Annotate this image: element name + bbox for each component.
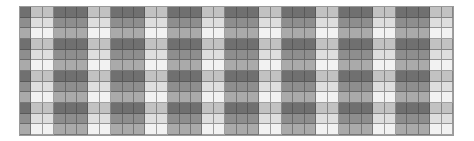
- grid-cell: [43, 124, 54, 135]
- grid-cell: [362, 82, 373, 93]
- grid-cell: [43, 103, 54, 114]
- grid-cell: [54, 18, 65, 29]
- grid-cell: [396, 7, 407, 18]
- grid-cell: [373, 28, 384, 39]
- grid-cell: [350, 103, 361, 114]
- grid-cell: [442, 92, 453, 103]
- grid-cell: [442, 103, 453, 114]
- grid-cell: [237, 103, 248, 114]
- grid-cell: [123, 92, 134, 103]
- grid-cell: [362, 28, 373, 39]
- grid-cell: [20, 28, 31, 39]
- grid-cell: [328, 114, 339, 125]
- grid-cell: [237, 7, 248, 18]
- grid-cell: [407, 7, 418, 18]
- grid-cell: [66, 103, 77, 114]
- grid-cell: [385, 124, 396, 135]
- grid-cell: [373, 39, 384, 50]
- grid-cell: [168, 28, 179, 39]
- grid-cell: [100, 39, 111, 50]
- grid-cell: [123, 39, 134, 50]
- grid-cell: [430, 71, 441, 82]
- grid-cell: [396, 82, 407, 93]
- grid-cell: [339, 39, 350, 50]
- grid-cell: [271, 28, 282, 39]
- grid-cell: [248, 124, 259, 135]
- grid-cell: [419, 82, 430, 93]
- grid-cell: [259, 7, 270, 18]
- grid-cell: [20, 114, 31, 125]
- grid-cell: [385, 114, 396, 125]
- grid-cell: [430, 114, 441, 125]
- grid-cell: [191, 71, 202, 82]
- grid-cell: [77, 7, 88, 18]
- grid-cell: [350, 18, 361, 29]
- grid-cell: [191, 39, 202, 50]
- grid-cell: [20, 124, 31, 135]
- grid-cell: [282, 7, 293, 18]
- grid-cell: [134, 39, 145, 50]
- grid-cell: [191, 60, 202, 71]
- grid-cell: [293, 92, 304, 103]
- grid-cell: [157, 103, 168, 114]
- grid-cell: [134, 124, 145, 135]
- grid-cell: [282, 39, 293, 50]
- grid-cell: [430, 82, 441, 93]
- grid-cell: [339, 103, 350, 114]
- grid-cell: [111, 114, 122, 125]
- grid-cell: [305, 28, 316, 39]
- grid-cell: [77, 103, 88, 114]
- grid-cell: [88, 124, 99, 135]
- grid-cell: [134, 7, 145, 18]
- grid-cell: [214, 28, 225, 39]
- grid-cell: [407, 114, 418, 125]
- grid-cell: [202, 114, 213, 125]
- grid-cell: [88, 114, 99, 125]
- grid-cell: [419, 124, 430, 135]
- grid-cell: [271, 114, 282, 125]
- grid-cell: [407, 71, 418, 82]
- grid-cell: [430, 28, 441, 39]
- grid-cell: [145, 18, 156, 29]
- grid-cell: [328, 103, 339, 114]
- grid-cell: [214, 60, 225, 71]
- grid-cell: [339, 71, 350, 82]
- grid-cell: [54, 103, 65, 114]
- grid-cell: [237, 92, 248, 103]
- grid-cell: [202, 18, 213, 29]
- grid-cell: [339, 82, 350, 93]
- grid-cell: [328, 50, 339, 61]
- grid-cell: [134, 18, 145, 29]
- grid-cell: [442, 7, 453, 18]
- grid-cell: [20, 7, 31, 18]
- grid-cell: [214, 114, 225, 125]
- grid-cell: [385, 71, 396, 82]
- grid-cell: [259, 103, 270, 114]
- grid-cell: [385, 92, 396, 103]
- grid-cell: [168, 18, 179, 29]
- grid-cell: [168, 39, 179, 50]
- grid-cell: [350, 82, 361, 93]
- grid-cell: [100, 50, 111, 61]
- grid-cell: [168, 82, 179, 93]
- grid-cell: [328, 39, 339, 50]
- grid-cell: [248, 114, 259, 125]
- grid-cell: [293, 18, 304, 29]
- grid-cell: [134, 60, 145, 71]
- grid-cell: [362, 114, 373, 125]
- grid-cell: [111, 103, 122, 114]
- grid-cell: [282, 28, 293, 39]
- grid-cell: [385, 28, 396, 39]
- grid-cell: [339, 60, 350, 71]
- grid-cell: [77, 50, 88, 61]
- grid-cell: [123, 7, 134, 18]
- grid-cell: [350, 114, 361, 125]
- grid-cell: [396, 92, 407, 103]
- grid-cell: [271, 60, 282, 71]
- grid-cell: [305, 82, 316, 93]
- grid-cell: [180, 103, 191, 114]
- grid-cell: [123, 124, 134, 135]
- grid-cell: [373, 18, 384, 29]
- grid-cell: [214, 39, 225, 50]
- grid-cell: [111, 92, 122, 103]
